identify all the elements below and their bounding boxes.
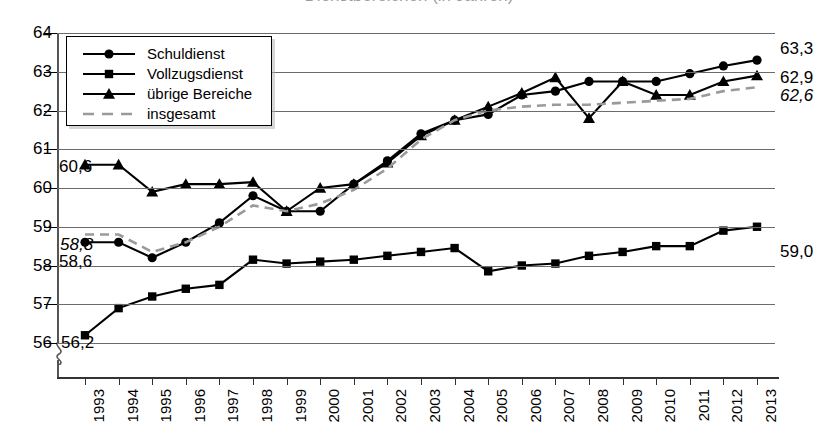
y-axis-tick-mark [44, 266, 57, 267]
data-point-square [484, 267, 492, 275]
legend-marker-square-icon [81, 63, 137, 84]
x-axis-tick-label: 2012 [729, 389, 744, 422]
data-point-circle [316, 207, 325, 216]
x-axis-tick-label: 2010 [662, 389, 677, 422]
data-point-square [618, 248, 626, 256]
data-point-circle [685, 69, 694, 78]
x-axis-tick-mark [287, 378, 288, 385]
x-axis-tick-mark [387, 378, 388, 385]
data-point-triangle [549, 72, 561, 83]
x-axis-tick-mark [656, 378, 657, 385]
data-point-circle [752, 56, 761, 65]
gridline [57, 266, 775, 267]
x-axis-tick-mark [589, 378, 590, 385]
data-point-circle [148, 253, 157, 262]
data-point-square [417, 248, 425, 256]
x-axis-tick-label: 2006 [528, 389, 543, 422]
data-point-square [215, 281, 223, 289]
gridline [57, 149, 775, 150]
legend-item-label: Schuldienst [147, 44, 225, 63]
x-axis-tick-mark [85, 378, 86, 385]
y-axis-tick-mark [44, 72, 57, 73]
chart-figure: Dienstbereichen (in Jahren) 646362616059… [0, 0, 818, 437]
y-axis-tick-mark [44, 188, 57, 189]
x-axis-tick-label: 2003 [427, 389, 442, 422]
x-axis-tick-label: 1999 [293, 389, 308, 422]
data-point-circle [248, 191, 257, 200]
y-axis-tick-mark [44, 149, 57, 150]
x-axis-tick-label: 2008 [595, 389, 610, 422]
value-annotation-left: 58,8 [60, 236, 93, 253]
data-point-square [383, 252, 391, 260]
x-axis-tick-label: 1994 [125, 389, 140, 422]
x-axis-tick-label: 1996 [192, 389, 207, 422]
legend-item[interactable]: Schuldienst [67, 43, 273, 64]
data-point-square [282, 259, 290, 267]
data-point-circle [114, 238, 123, 247]
x-axis-tick-mark [320, 378, 321, 385]
data-point-square [182, 285, 190, 293]
data-point-square [551, 259, 559, 267]
value-annotation-left: 56,2 [61, 334, 94, 351]
x-axis-line [57, 377, 779, 379]
chart-title: Dienstbereichen (in Jahren) [0, 0, 818, 6]
legend-marker-triangle-icon [81, 83, 137, 104]
legend-item-label: insgesamt [147, 104, 215, 123]
value-annotation-left: 58,6 [59, 253, 92, 270]
x-axis-tick-label: 2013 [763, 389, 778, 422]
gridline [57, 227, 775, 228]
x-axis-tick-mark [690, 378, 691, 385]
x-axis-tick-mark [723, 378, 724, 385]
data-point-triangle [516, 87, 528, 98]
data-point-square [148, 292, 156, 300]
x-axis-tick-label: 2011 [696, 389, 711, 421]
y-axis-tick-mark [44, 304, 57, 305]
gridline [57, 343, 775, 344]
x-axis-tick-mark [219, 378, 220, 385]
chart-legend: SchuldienstVollzugsdienstübrige Bereiche… [66, 36, 272, 126]
x-axis-tick-label: 2007 [561, 389, 576, 422]
legend-item[interactable]: insgesamt [67, 103, 273, 124]
data-point-square [686, 242, 694, 250]
x-axis-tick-mark [119, 378, 120, 385]
data-point-square [450, 244, 458, 252]
x-axis-tick-mark [555, 378, 556, 385]
legend-item[interactable]: übrige Bereiche [67, 83, 273, 104]
x-axis-tick-label: 2009 [629, 389, 644, 422]
x-axis-tick-label: 1997 [225, 389, 240, 422]
data-point-square [652, 242, 660, 250]
data-point-square [249, 255, 257, 263]
x-axis-tick-mark [757, 378, 758, 385]
x-axis-tick-mark [152, 378, 153, 385]
legend-item-label: übrige Bereiche [147, 84, 252, 103]
data-point-circle [652, 77, 661, 86]
gridline [57, 188, 775, 189]
y-axis-tick-mark [44, 227, 57, 228]
x-axis-tick-label: 2004 [461, 389, 476, 422]
legend-item-label: Vollzugsdienst [147, 64, 243, 83]
legend-marker-dashed-line-icon [81, 103, 137, 124]
legend-item[interactable]: Vollzugsdienst [67, 63, 273, 84]
data-point-square [105, 70, 113, 78]
data-point-circle [104, 49, 113, 58]
value-annotation-left: 60,6 [59, 158, 92, 175]
x-axis-tick-mark [488, 378, 489, 385]
y-axis-tick-mark [44, 33, 57, 34]
value-annotation-right: 62,6 [780, 87, 813, 104]
y-axis-tick-mark [44, 343, 57, 344]
x-axis-tick-label: 2005 [494, 389, 509, 422]
x-axis-tick-mark [253, 378, 254, 385]
x-axis-tick-mark [522, 378, 523, 385]
x-axis-tick-label: 2001 [360, 389, 375, 422]
x-axis-tick-mark [354, 378, 355, 385]
x-axis-tick-label: 1995 [158, 389, 173, 422]
data-point-circle [551, 87, 560, 96]
y-axis-tick-mark [44, 111, 57, 112]
data-point-square [585, 252, 593, 260]
x-axis-tick-label: 2002 [393, 389, 408, 422]
value-annotation-right: 59,0 [780, 243, 813, 260]
legend-marker-circle-icon [81, 43, 137, 64]
gridline [57, 33, 775, 34]
value-annotation-right: 62,9 [780, 69, 813, 86]
x-axis-tick-mark [421, 378, 422, 385]
